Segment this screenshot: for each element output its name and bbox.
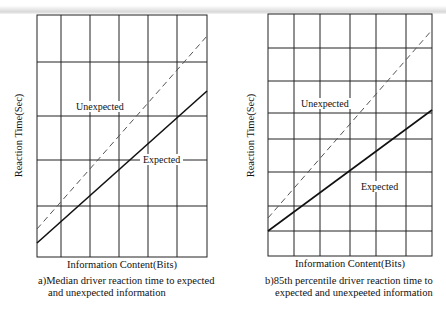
panel-a-caption-line2: and unexpected information [38,287,214,299]
panel-a-unexpected-label: Unexpected [73,101,127,112]
panel-a-caption-line1: a)Median driver reaction time to expecte… [38,275,214,286]
panel-a-caption: a)Median driver reaction time to expecte… [38,275,214,299]
panel-b-caption-line1: b)85th percentile driver reaction time t… [265,275,433,286]
panel-a-expected-label: Expected [140,154,183,165]
panel-b-caption: b)85th percentile driver reaction time t… [265,275,433,299]
panel-b-expected-label: Expected [358,181,401,192]
panel-a-x-axis-label: Information Content(Bits) [37,259,207,270]
panel-a-y-axis-label: Reaction Time(Sec) [13,91,24,181]
panel-b-caption-line2: expected and unexpeeted information [265,287,433,299]
panel-a-unexpected-line [37,36,207,229]
panel-b-grid [268,14,432,256]
panel-a-expected-line [37,91,207,243]
panel-b-y-axis-label: Reaction Time(Sec) [245,91,256,181]
panel-b-unexpected-label: Unexpected [298,98,352,109]
panel-b-x-axis-label: Information Content(Bits) [268,258,432,269]
